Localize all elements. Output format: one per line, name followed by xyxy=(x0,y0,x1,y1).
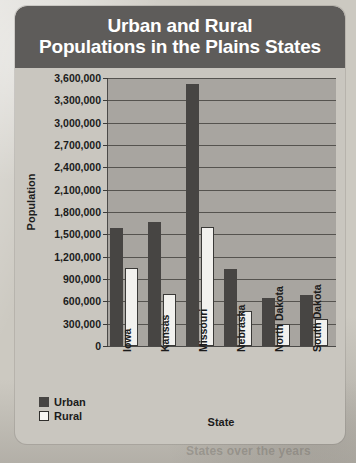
legend-swatch-urban xyxy=(39,397,49,407)
y-axis-tick-label: 1,500,000 xyxy=(54,228,101,240)
y-axis-tick-label: 0 xyxy=(95,340,101,352)
bar-urban xyxy=(186,84,199,346)
legend-swatch-rural xyxy=(39,411,49,421)
y-axis-tick-label: 2,700,000 xyxy=(54,139,101,151)
plot-wrapper: Population 3,600,0003,300,0003,000,0002,… xyxy=(15,68,345,444)
chart-title-line-1: Urban and Rural xyxy=(108,16,253,37)
bar-group xyxy=(108,78,146,346)
legend-item-rural: Rural xyxy=(39,410,135,422)
y-axis-label: Population xyxy=(25,162,37,242)
legend-item-urban: Urban xyxy=(39,396,135,408)
x-axis-tick-label: Iowa xyxy=(121,329,133,352)
y-axis-tick-label: 1,800,000 xyxy=(54,206,101,218)
chart-card: Urban and Rural Populations in the Plain… xyxy=(15,6,345,444)
bar-group xyxy=(146,78,184,346)
y-axis-tick-labels: 3,600,0003,300,0003,000,0002,700,0002,40… xyxy=(43,78,105,346)
x-axis-tick-label: North Dakota xyxy=(273,286,285,352)
y-axis-tick-label: 2,100,000 xyxy=(54,184,101,196)
legend-label-urban: Urban xyxy=(54,396,86,408)
x-axis-label: State xyxy=(107,416,335,428)
x-axis-tick-label: South Dakota xyxy=(311,284,323,352)
background-bleed-text-3: States over the years xyxy=(186,444,311,458)
y-axis-tick-label: 2,400,000 xyxy=(54,161,101,173)
y-axis-tick-label: 900,000 xyxy=(63,273,101,285)
y-axis-tickmark xyxy=(103,346,108,347)
chart-title-line-2: Populations in the Plains States xyxy=(39,37,321,58)
legend-label-rural: Rural xyxy=(54,410,82,422)
chart-legend: Urban Rural xyxy=(39,396,135,424)
chart-title-banner: Urban and Rural Populations in the Plain… xyxy=(15,6,345,68)
plot-area xyxy=(107,78,336,347)
x-axis-tick-label: Missouri xyxy=(197,309,209,352)
x-axis-tick-label: Nebraska xyxy=(235,305,247,352)
y-axis-tick-label: 1,200,000 xyxy=(54,251,101,263)
y-axis-tick-label: 600,000 xyxy=(63,295,101,307)
bar-group xyxy=(184,78,222,346)
y-axis-tick-label: 3,000,000 xyxy=(54,117,101,129)
x-axis-tick-label: Kansas xyxy=(159,315,171,352)
y-axis-tick-label: 3,300,000 xyxy=(54,94,101,106)
y-axis-tick-label: 3,600,000 xyxy=(54,72,101,84)
y-axis-tick-label: 300,000 xyxy=(63,318,101,330)
